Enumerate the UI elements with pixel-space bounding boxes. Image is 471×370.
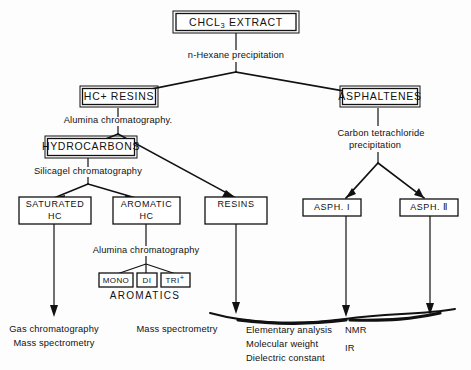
flowchart-diagram: CHCL3 EXTRACT HC+ RESINS ASPHALTENES HYD… bbox=[0, 0, 471, 370]
arrowhead-asph-ii bbox=[414, 188, 424, 198]
hc-resins-label: HC+ RESINS bbox=[84, 90, 154, 102]
analysis-asph-line1: NMR bbox=[345, 325, 367, 335]
edge-silicagel-to-saturated bbox=[54, 184, 88, 198]
resins-label: RESINS bbox=[217, 199, 254, 209]
analysis-aromatic-line1: Mass spectrometry bbox=[136, 324, 217, 334]
asphaltenes-label: ASPHALTENES bbox=[338, 90, 421, 102]
arrowhead-resins-brace bbox=[232, 302, 240, 314]
analysis-saturated-line2: Mass spectrometry bbox=[13, 338, 94, 348]
saturated-hc-label-line2: HC bbox=[48, 211, 62, 221]
analysis-layer: Gas chromatography Mass spectrometry Mas… bbox=[9, 324, 367, 363]
edge-silicagel-to-aromatic bbox=[88, 184, 136, 198]
asph-ii-label: ASPH. Ⅱ bbox=[410, 202, 448, 212]
label-carbon-tetrachloride-line2: precipitation bbox=[349, 140, 401, 150]
group-label-layer: AROMATICS bbox=[110, 290, 180, 301]
di-label: DI bbox=[143, 276, 152, 285]
aromatic-hc-label-line1: AROMATIC bbox=[121, 199, 173, 209]
aromatic-hc-label-line2: HC bbox=[139, 211, 153, 221]
asph-i-label: ASPH. I bbox=[314, 202, 350, 212]
analysis-asph-line2: IR bbox=[345, 343, 355, 353]
saturated-hc-label-line1: SATURATED bbox=[26, 199, 85, 209]
label-silicagel-chromatography: Silicagel chromatography bbox=[34, 166, 142, 176]
analysis-resins-line3: Dielectric constant bbox=[246, 353, 325, 363]
label-alumina-chromatography-2: Alumina chromatography bbox=[93, 245, 200, 255]
flowchart-svg: CHCL3 EXTRACT HC+ RESINS ASPHALTENES HYD… bbox=[0, 0, 471, 370]
analysis-resins-line2: Molecular weight bbox=[246, 339, 318, 349]
label-carbon-tetrachloride-line1: Carbon tetrachloride bbox=[337, 128, 424, 138]
analysis-saturated-line1: Gas chromatography bbox=[9, 324, 99, 334]
label-aromatics-group: AROMATICS bbox=[110, 290, 180, 301]
mono-label: MONO bbox=[103, 276, 130, 285]
arrowhead-asph-i-brace bbox=[342, 305, 350, 317]
hydrocarbons-label: HYDROCARBONS bbox=[42, 140, 140, 152]
label-n-hexane-precipitation: n-Hexane precipitation bbox=[188, 50, 284, 60]
arrowhead-saturated-analysis bbox=[50, 305, 58, 317]
analysis-resins-line1: Elementary analysis bbox=[246, 325, 332, 335]
label-alumina-chromatography-1: Alumina chromatography. bbox=[64, 115, 173, 125]
